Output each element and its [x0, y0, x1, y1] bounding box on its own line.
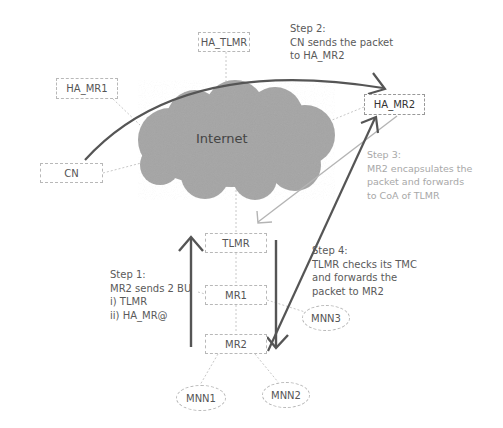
step2-note: Step 2: CN sends the packet to HA_MR2 — [290, 22, 393, 63]
ha-mr2-node: HA_MR2 — [364, 94, 425, 115]
step4-line: and forwards the — [312, 271, 417, 285]
tlmr-node: TLMR — [205, 233, 267, 253]
ha-tlmr-node: HA_TLMR — [198, 32, 250, 52]
step2-line: Step 2: — [290, 22, 393, 36]
step1-note: Step 1: MR2 sends 2 BU i) TLMR ii) HA_MR… — [110, 268, 191, 322]
step4-line: TLMR checks its TMC — [312, 258, 417, 272]
step1-line: Step 1: — [110, 268, 191, 282]
mr2-node: MR2 — [205, 334, 267, 354]
mnn1-node: MNN1 — [176, 385, 226, 411]
step4-note: Step 4: TLMR checks its TMC and forwards… — [312, 244, 417, 298]
step4-line: Step 4: — [312, 244, 417, 258]
step3-line: to CoA of TLMR — [367, 189, 472, 203]
step3-line: MR2 encapsulates the — [367, 162, 472, 176]
mnn2-node: MNN2 — [262, 382, 310, 408]
ha-mr1-node: HA_MR1 — [56, 78, 118, 99]
mr1-node: MR1 — [205, 285, 267, 305]
cn-node: CN — [40, 163, 103, 183]
step3-line: Step 3: — [367, 148, 472, 162]
step3-note: Step 3: MR2 encapsulates the packet and … — [367, 148, 472, 202]
step1-line: MR2 sends 2 BU — [110, 282, 191, 296]
network-diagram — [0, 0, 503, 428]
step2-line: CN sends the packet — [290, 36, 393, 50]
step2-line: to HA_MR2 — [290, 49, 393, 63]
step4-line: packet to MR2 — [312, 285, 417, 299]
step1-line: ii) HA_MR@ — [110, 309, 191, 323]
step3-line: packet and forwards — [367, 175, 472, 189]
mnn3-node: MNN3 — [302, 305, 350, 331]
step1-line: i) TLMR — [110, 295, 191, 309]
internet-label: Internet — [196, 131, 248, 146]
